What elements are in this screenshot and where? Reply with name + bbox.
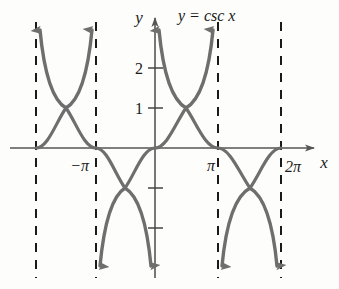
x-tick-label-2pi: 2π [285,158,302,175]
graph-title: y = csc x [176,7,235,25]
y-axis-label: y [133,8,143,27]
x-tick-label-neg-pi: −π [70,157,90,174]
sine-arc-1 [36,108,96,148]
csc-branch-pi-2pi [222,188,277,266]
x-axis-label: x [319,153,328,172]
x-tick-label-pi: π [207,157,216,174]
csc-branch-negpi-zero [100,188,151,266]
csc-branch-zero-pi [159,30,213,108]
sine-arc-4 [218,148,281,188]
csc-graph-svg: y x y = csc x 2 1 −π π 2π [0,0,339,289]
y-tick-label-1: 1 [135,100,143,117]
graph-figure: y x y = csc x 2 1 −π π 2π [0,0,339,289]
sine-arc-2 [96,148,155,188]
y-tick-label-2: 2 [135,60,143,77]
sine-arc-3 [155,108,218,148]
asymptotes-group [36,22,281,278]
csc-branch-neg2pi-negpi [40,30,92,108]
